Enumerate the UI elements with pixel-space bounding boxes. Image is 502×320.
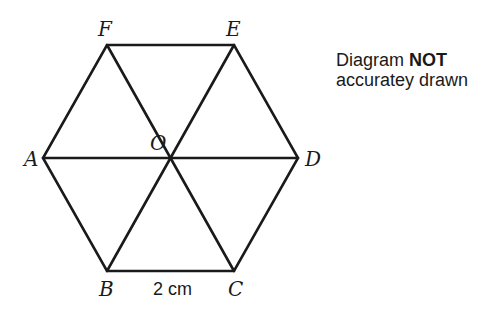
vertex-label-E: E	[225, 17, 241, 41]
vertex-label-A: A	[22, 147, 38, 171]
side-length-label: 2 cm	[153, 279, 192, 299]
note-emphasis: NOT	[409, 50, 447, 70]
hexagon-diagram: F E A D O B C 2 cm	[0, 0, 502, 320]
vertex-label-C: C	[228, 277, 243, 301]
vertex-label-D: D	[304, 147, 321, 171]
note-line-1: Diagram NOT	[336, 50, 468, 70]
vertex-label-F: F	[97, 17, 113, 41]
vertex-label-O: O	[150, 131, 166, 155]
note-line-2: accuratey drawn	[336, 70, 468, 90]
vertex-label-B: B	[98, 277, 114, 301]
not-to-scale-note: Diagram NOT accuratey drawn	[336, 50, 468, 90]
note-prefix: Diagram	[336, 50, 409, 70]
